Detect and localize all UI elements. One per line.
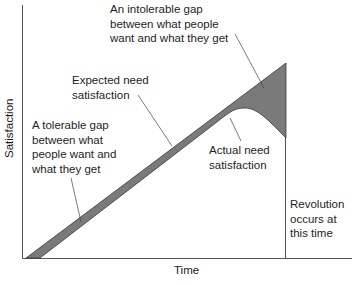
actual-need-annotation: Actual need satisfaction xyxy=(209,143,270,172)
intolerable-gap-leader xyxy=(235,34,264,88)
revolution-annotation: Revolution occurs at this time xyxy=(290,197,344,241)
expected-need-leader xyxy=(138,95,172,146)
tolerable-gap-annotation: A tolerable gap between what people want… xyxy=(32,118,116,176)
y-axis-label: Satisfaction xyxy=(3,99,15,158)
expected-need-annotation: Expected need satisfaction xyxy=(72,73,149,102)
intolerable-gap-annotation: An intolerable gap between what people w… xyxy=(110,2,228,46)
tolerable-gap-leader xyxy=(71,178,81,222)
x-axis-label: Time xyxy=(174,264,199,276)
actual-need-leader xyxy=(230,118,241,141)
